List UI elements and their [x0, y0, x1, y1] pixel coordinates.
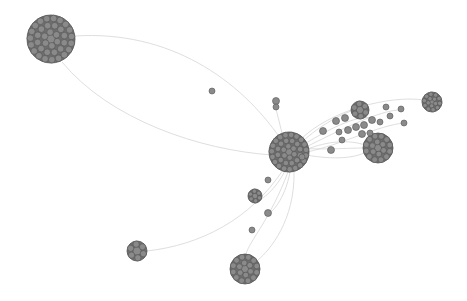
cluster-node[interactable]: [370, 149, 376, 155]
cluster-node[interactable]: [135, 255, 141, 261]
graph-node[interactable]: [342, 115, 349, 122]
node-cluster[interactable]: [351, 101, 369, 119]
graph-node[interactable]: [398, 106, 404, 112]
cluster-node[interactable]: [288, 132, 294, 138]
cluster-node[interactable]: [303, 147, 309, 153]
cluster-node[interactable]: [291, 146, 297, 152]
cluster-node[interactable]: [287, 155, 293, 161]
cluster-node[interactable]: [243, 272, 249, 278]
graph-node[interactable]: [353, 124, 360, 131]
graph-node[interactable]: [359, 131, 366, 138]
node-cluster[interactable]: [269, 132, 309, 172]
cluster-node[interactable]: [424, 94, 428, 98]
cluster-node[interactable]: [233, 275, 239, 281]
cluster-node[interactable]: [247, 262, 253, 268]
cluster-node[interactable]: [234, 257, 240, 263]
node-cluster[interactable]: [27, 15, 75, 63]
cluster-node[interactable]: [275, 152, 281, 158]
cluster-node[interactable]: [270, 143, 276, 149]
cluster-node[interactable]: [367, 136, 373, 142]
graph-node[interactable]: [209, 88, 215, 94]
cluster-node[interactable]: [249, 197, 253, 201]
cluster-node[interactable]: [278, 157, 284, 163]
cluster-node[interactable]: [437, 96, 441, 100]
cluster-node[interactable]: [38, 45, 45, 52]
cluster-node[interactable]: [431, 108, 435, 112]
cluster-node[interactable]: [363, 142, 369, 148]
cluster-node[interactable]: [275, 146, 281, 152]
cluster-node[interactable]: [51, 22, 58, 29]
cluster-node[interactable]: [429, 92, 433, 96]
cluster-node[interactable]: [297, 162, 303, 168]
cluster-node[interactable]: [352, 111, 358, 117]
cluster-node[interactable]: [239, 254, 245, 260]
cluster-node[interactable]: [278, 141, 284, 147]
cluster-node[interactable]: [34, 39, 41, 46]
cluster-node[interactable]: [68, 33, 75, 40]
cluster-node[interactable]: [239, 278, 245, 284]
cluster-node[interactable]: [356, 101, 362, 107]
cluster-node[interactable]: [53, 32, 60, 39]
graph-node[interactable]: [336, 129, 342, 135]
cluster-node[interactable]: [378, 133, 384, 139]
cluster-node[interactable]: [283, 138, 289, 144]
node-cluster[interactable]: [422, 92, 442, 112]
graph-node[interactable]: [369, 117, 376, 124]
graph-node[interactable]: [265, 210, 272, 217]
cluster-node[interactable]: [289, 160, 295, 166]
cluster-node[interactable]: [42, 40, 49, 47]
cluster-node[interactable]: [433, 93, 437, 97]
cluster-node[interactable]: [55, 55, 62, 62]
cluster-node[interactable]: [423, 103, 427, 107]
graph-node[interactable]: [273, 98, 280, 105]
cluster-node[interactable]: [283, 160, 289, 166]
cluster-node[interactable]: [282, 153, 288, 159]
cluster-node[interactable]: [44, 22, 51, 29]
cluster-node[interactable]: [270, 154, 276, 160]
cluster-node[interactable]: [351, 105, 357, 111]
graph-node[interactable]: [377, 119, 383, 125]
cluster-node[interactable]: [66, 27, 73, 34]
cluster-node[interactable]: [139, 244, 145, 250]
cluster-node[interactable]: [31, 48, 38, 55]
cluster-node[interactable]: [294, 157, 300, 163]
graph-node[interactable]: [273, 104, 279, 110]
cluster-node[interactable]: [381, 147, 387, 153]
cluster-node[interactable]: [140, 251, 146, 257]
cluster-node[interactable]: [252, 189, 256, 193]
cluster-node[interactable]: [376, 151, 382, 157]
cluster-node[interactable]: [54, 38, 61, 45]
cluster-node[interactable]: [237, 270, 243, 276]
cluster-node[interactable]: [51, 49, 58, 56]
cluster-node[interactable]: [277, 134, 283, 140]
graph-node[interactable]: [249, 227, 255, 233]
cluster-node[interactable]: [289, 138, 295, 144]
cluster-node[interactable]: [378, 157, 384, 163]
cluster-node[interactable]: [37, 18, 44, 25]
cluster-node[interactable]: [363, 110, 369, 116]
cluster-node[interactable]: [34, 32, 41, 39]
cluster-node[interactable]: [384, 154, 390, 160]
cluster-node[interactable]: [44, 49, 51, 56]
cluster-node[interactable]: [257, 191, 261, 195]
cluster-node[interactable]: [387, 148, 393, 154]
cluster-node[interactable]: [422, 98, 426, 102]
cluster-node[interactable]: [287, 166, 293, 172]
graph-node[interactable]: [383, 104, 389, 110]
cluster-node[interactable]: [283, 132, 289, 138]
cluster-node[interactable]: [41, 33, 48, 40]
cluster-node[interactable]: [68, 40, 75, 47]
cluster-node[interactable]: [27, 35, 34, 42]
graph-node[interactable]: [367, 130, 373, 136]
cluster-node[interactable]: [230, 269, 236, 275]
cluster-node[interactable]: [257, 196, 261, 200]
cluster-node[interactable]: [133, 241, 139, 247]
graph-node[interactable]: [339, 137, 345, 143]
cluster-node[interactable]: [61, 39, 68, 46]
cluster-node[interactable]: [362, 103, 368, 109]
node-cluster[interactable]: [248, 189, 262, 203]
cluster-node[interactable]: [384, 137, 390, 143]
graph-node[interactable]: [387, 113, 393, 119]
cluster-node[interactable]: [254, 269, 260, 275]
cluster-node[interactable]: [47, 29, 54, 36]
